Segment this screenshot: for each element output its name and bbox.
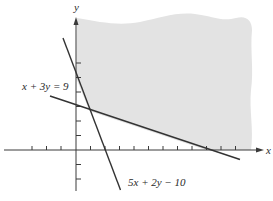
x-axis-arrow-icon xyxy=(256,148,264,153)
line-x-3y-9-label: x + 3y = 9 xyxy=(21,80,69,92)
x-axis-label: x xyxy=(265,144,271,156)
graph: y x x + 3y = 9 5x + 2y − 10 xyxy=(0,0,273,201)
line-5x-2y-10-label: 5x + 2y − 10 xyxy=(128,176,186,188)
y-axis-label: y xyxy=(73,1,79,13)
feasible-region xyxy=(76,14,252,150)
